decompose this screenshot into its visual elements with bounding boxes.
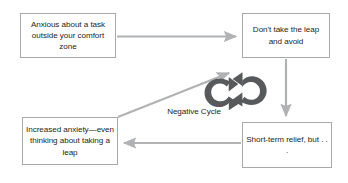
- negative-cycle-diagram: Anxious about a task outside your comfor…: [0, 0, 348, 183]
- cycle-arrows-icon: [0, 0, 348, 183]
- negative-cycle-label: Negative Cycle: [158, 106, 230, 117]
